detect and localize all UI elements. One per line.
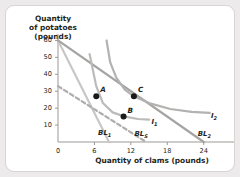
- y-tick-label: 20: [34, 104, 52, 112]
- y-tick-label: 10: [34, 121, 52, 129]
- curve-label-BLS: BLS: [135, 130, 148, 139]
- series-I2: [107, 40, 210, 112]
- curve-label-BL2: BL2: [198, 130, 211, 139]
- curve-label-BL1: BL1: [98, 129, 111, 138]
- data-point-B: [121, 114, 127, 120]
- x-tick-label: 6: [87, 147, 101, 155]
- curve-label-sub: 1: [154, 122, 157, 128]
- curve-label-sub: S: [144, 133, 148, 139]
- y-tick-label: 40: [34, 70, 52, 78]
- curve-label-sub: 2: [214, 115, 217, 121]
- curve-label-text: BL: [98, 129, 108, 137]
- x-tick-label: 24: [197, 147, 211, 155]
- curve-label-sub: 1: [108, 132, 111, 138]
- data-point-A: [93, 93, 99, 99]
- curve-label-I2: I2: [211, 112, 217, 121]
- curve-label-I1: I1: [152, 118, 158, 127]
- data-point-label-C: C: [138, 85, 143, 94]
- curve-label-text: BL: [135, 130, 145, 138]
- data-point-label-B: B: [128, 106, 133, 115]
- chart-card: Quantity of potatoes (pounds) Quantity o…: [5, 5, 235, 172]
- x-tick-label: 18: [160, 147, 174, 155]
- y-tick-label: 60: [34, 36, 52, 44]
- x-tick-label: 0: [51, 147, 65, 155]
- data-point-C: [131, 93, 137, 99]
- curve-label-text: BL: [198, 130, 208, 138]
- x-tick-label: 12: [124, 147, 138, 155]
- series-BL2: [58, 40, 204, 142]
- curve-label-sub: 2: [207, 133, 210, 139]
- data-point-label-A: A: [100, 85, 106, 94]
- y-tick-label: 30: [34, 87, 52, 95]
- y-tick-label: 50: [34, 53, 52, 61]
- chart-figure: Quantity of potatoes (pounds) Quantity o…: [0, 0, 240, 177]
